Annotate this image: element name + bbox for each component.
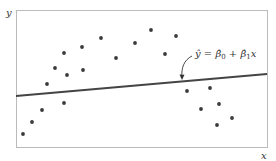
data-point	[62, 51, 66, 55]
data-points	[21, 28, 234, 136]
x-axis-label: x	[261, 150, 267, 161]
data-point	[215, 123, 219, 127]
data-point	[45, 82, 49, 86]
data-point	[217, 102, 221, 106]
data-point	[230, 116, 234, 120]
data-point	[174, 34, 178, 38]
eq-plus: +	[226, 48, 241, 59]
data-point	[208, 86, 212, 90]
y-axis-label: y	[5, 7, 12, 18]
data-point	[80, 45, 84, 49]
data-point	[185, 89, 189, 93]
annotation-arrow	[182, 56, 192, 78]
regression-line	[16, 74, 267, 96]
data-point	[199, 107, 203, 111]
data-point	[163, 52, 167, 56]
plot-frame	[17, 11, 268, 148]
data-point	[81, 68, 85, 72]
data-point	[30, 120, 34, 124]
data-point	[62, 101, 66, 105]
data-point	[114, 56, 118, 60]
data-point	[133, 41, 137, 45]
data-point	[21, 132, 25, 136]
eq-equals: =	[201, 48, 216, 59]
arrow-head-icon	[180, 75, 185, 81]
data-point	[65, 73, 69, 77]
scatter-plot: y x ŷ = β̂0 + β̂1x	[0, 0, 276, 161]
data-point	[99, 36, 103, 40]
data-point	[149, 28, 153, 32]
regression-equation: ŷ = β̂0 + β̂1x	[194, 48, 257, 61]
eq-x: x	[251, 48, 257, 59]
data-point	[40, 108, 44, 112]
data-point	[53, 66, 57, 70]
